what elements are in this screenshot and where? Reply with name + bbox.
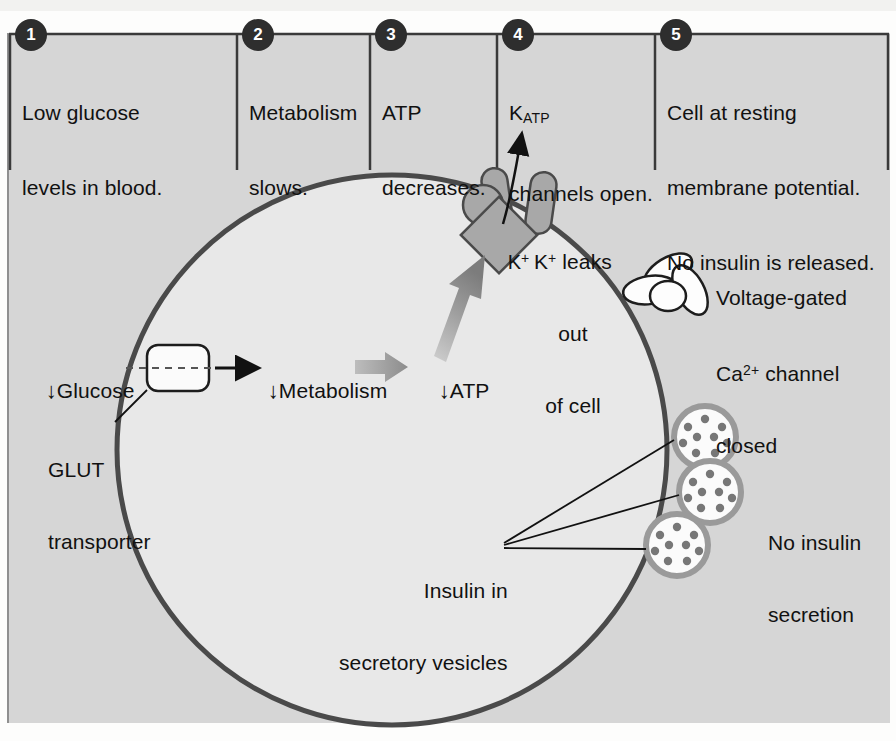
metabolism-down-arrow: ↓	[268, 378, 279, 403]
step-badge-3: 3	[376, 20, 406, 50]
step-3-line-2: decreases.	[382, 175, 486, 200]
no-secretion-line-1: No insulin	[768, 531, 861, 555]
page-top-crop	[0, 0, 896, 11]
k-leak-line-2: out	[534, 322, 612, 346]
figure-canvas: 1 Low glucose levels in blood. 2 Metabol…	[0, 0, 896, 741]
insulin-vesicles-label: Insulin in secretory vesicles	[339, 531, 508, 723]
ca-label-line-2: Ca2+ channel	[716, 358, 847, 386]
step-text-1: Low glucose levels in blood.	[22, 50, 163, 250]
step-2-line-1: Metabolism	[249, 100, 357, 125]
calcium-channel-label: Voltage-gated Ca2+ channel closed	[716, 238, 847, 506]
no-secretion-label: No insulin secretion	[768, 483, 861, 675]
glut-transporter-label: GLUT transporter	[48, 410, 151, 602]
ca-label-line-3: closed	[716, 434, 847, 458]
step-badge-2: 2	[243, 20, 273, 50]
step-1-line-1: Low glucose	[22, 100, 163, 125]
step-5-line-1: Cell at resting	[667, 100, 875, 125]
step-1-line-2: levels in blood.	[22, 175, 163, 200]
ca-label-line-1: Voltage-gated	[716, 286, 847, 310]
panel-left-rule	[7, 33, 9, 723]
k-leak-line-1: K+ leaks	[534, 246, 612, 274]
step-badge-4: 4	[503, 20, 533, 50]
step-4-line-1: KATP	[509, 100, 653, 131]
vesicle-3	[646, 514, 708, 576]
step-3-line-1: ATP	[382, 100, 486, 125]
potassium-ion-label: K+	[485, 222, 529, 298]
atp-label: ↓ATP	[415, 355, 489, 427]
step-text-2: Metabolism slows.	[249, 50, 357, 250]
step-5-line-2: membrane potential.	[667, 175, 875, 200]
no-secretion-line-2: secretion	[768, 603, 861, 627]
katp-subscript: ATP	[523, 110, 550, 126]
step-2-line-2: slows.	[249, 175, 357, 200]
metabolism-label: ↓Metabolism	[244, 355, 387, 427]
k-ion-charge: +	[521, 250, 529, 266]
k-leak-line-3: of cell	[534, 394, 612, 418]
k-leak-label: K+ leaks out of cell	[534, 198, 612, 466]
step-text-3: ATP decreases.	[382, 50, 486, 250]
ca-charge-superscript: 2+	[743, 362, 759, 378]
step-badge-5: 5	[661, 20, 691, 50]
atp-down-arrow: ↓	[439, 378, 450, 403]
insulin-label-line-1: Insulin in	[339, 579, 508, 603]
insulin-label-line-2: secretory vesicles	[339, 651, 508, 675]
glucose-down-arrow: ↓	[46, 378, 57, 403]
glut-label-line-2: transporter	[48, 530, 151, 554]
step-badge-1: 1	[16, 20, 46, 50]
glut-label-line-1: GLUT	[48, 458, 151, 482]
